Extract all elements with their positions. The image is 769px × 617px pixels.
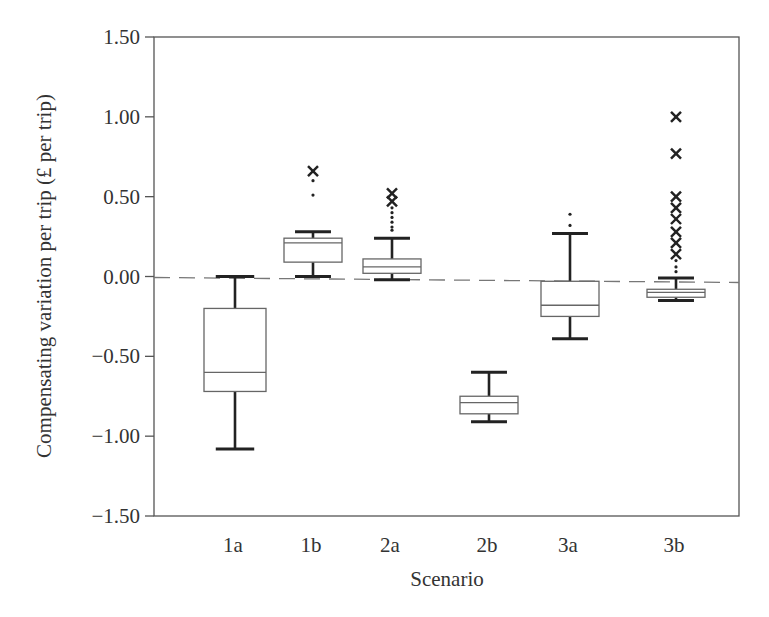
dashed-zero-line xyxy=(154,278,739,283)
iqr-box xyxy=(363,259,421,273)
outlier-dot xyxy=(568,224,571,227)
box-3a xyxy=(541,213,599,339)
outlier-cross-icon xyxy=(671,227,681,237)
iqr-box xyxy=(460,396,518,414)
outlier-dot xyxy=(568,213,571,216)
y-tick-label: 1.00 xyxy=(103,105,140,129)
iqr-box xyxy=(647,289,705,297)
outlier-dot xyxy=(674,270,677,273)
y-tick-label: 0.50 xyxy=(103,185,140,209)
x-category-label: 2a xyxy=(380,533,401,557)
outlier-cross-icon xyxy=(671,238,681,248)
box-plot-chart: 1.501.000.500.00−0.50−1.00−1.50 1a1b2a2b… xyxy=(0,0,769,617)
outlier-cross-icon xyxy=(671,249,681,259)
outlier-cross-icon xyxy=(387,196,397,206)
y-tick-label: −1.00 xyxy=(91,424,140,448)
outlier-cross-icon xyxy=(671,203,681,213)
outlier-dot xyxy=(390,225,393,228)
x-category-label: 1b xyxy=(301,533,322,557)
x-category-label: 3a xyxy=(558,533,579,557)
outlier-dot xyxy=(311,179,314,182)
x-category-label: 2b xyxy=(477,533,498,557)
outlier-cross-icon xyxy=(308,166,318,176)
y-tick-label: 0.00 xyxy=(103,265,140,289)
outlier-dot xyxy=(390,211,393,214)
x-category-label: 3b xyxy=(664,533,685,557)
y-axis-title: Compensating variation per trip (£ per t… xyxy=(32,94,56,458)
iqr-box xyxy=(204,308,266,391)
zero-reference-line xyxy=(154,278,739,283)
iqr-box xyxy=(541,281,599,316)
box-1b xyxy=(284,166,342,276)
x-axis-title: Scenario xyxy=(410,567,483,591)
box-2a xyxy=(363,188,421,279)
y-axis: 1.501.000.500.00−0.50−1.00−1.50 xyxy=(91,25,154,528)
y-tick-label: −1.50 xyxy=(91,504,140,528)
x-axis-category-labels: 1a1b2a2b3a3b xyxy=(223,533,684,557)
outlier-dot xyxy=(390,229,393,232)
outlier-dot xyxy=(674,265,677,268)
outlier-cross-icon xyxy=(671,149,681,159)
outlier-cross-icon xyxy=(671,214,681,224)
outlier-cross-icon xyxy=(671,112,681,122)
outlier-dot xyxy=(390,221,393,224)
x-category-label: 1a xyxy=(223,533,244,557)
outlier-dot xyxy=(390,206,393,209)
box-2b xyxy=(460,372,518,421)
iqr-box xyxy=(284,238,342,262)
box-3b xyxy=(647,112,705,301)
y-tick-label: 1.50 xyxy=(103,25,140,49)
outlier-dot xyxy=(390,216,393,219)
outlier-dot xyxy=(674,259,677,262)
outlier-dot xyxy=(311,193,314,196)
y-tick-label: −0.50 xyxy=(91,344,140,368)
box-1a xyxy=(204,277,266,449)
outlier-cross-icon xyxy=(671,192,681,202)
